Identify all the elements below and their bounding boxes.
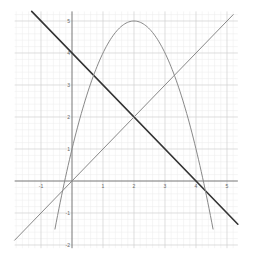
y-tick-label: 1 <box>67 146 70 152</box>
curves <box>15 11 238 240</box>
y-tick-label: 3 <box>67 82 70 88</box>
y-tick-label: 2 <box>67 114 70 120</box>
y-tick-label: -1 <box>66 210 71 216</box>
x-tick-label: 4 <box>195 183 198 189</box>
x-tick-label: 5 <box>226 183 229 189</box>
x-tick-label: 3 <box>164 183 167 189</box>
x-tick-label: 2 <box>133 183 136 189</box>
x-tick-label: 1 <box>102 183 105 189</box>
y-tick-label: -2 <box>66 242 71 248</box>
x-tick-label: -1 <box>39 183 44 189</box>
function-graph: -112345-2-112345 <box>0 0 260 260</box>
y-tick-label: 5 <box>67 18 70 24</box>
